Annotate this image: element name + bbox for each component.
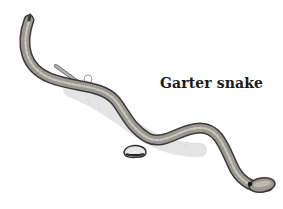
snake-body — [25, 15, 268, 187]
garter-snake-illustration — [0, 0, 283, 209]
eye-icon — [248, 182, 253, 187]
figure-label: Garter snake — [160, 75, 263, 91]
rock-icon — [124, 146, 146, 158]
snake-head — [248, 176, 276, 193]
figure-canvas: Garter snake — [0, 0, 283, 209]
